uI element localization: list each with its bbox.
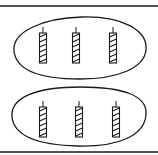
candle-icon (73, 27, 80, 63)
candle-group-2 (12, 87, 146, 146)
candle-icon (110, 27, 117, 63)
candle-icon (76, 101, 83, 137)
candle-icon (113, 101, 120, 137)
candle-icon (40, 27, 47, 63)
diagram-canvas (0, 0, 158, 155)
candle-icon (40, 101, 47, 137)
candle-group-1 (14, 17, 146, 79)
